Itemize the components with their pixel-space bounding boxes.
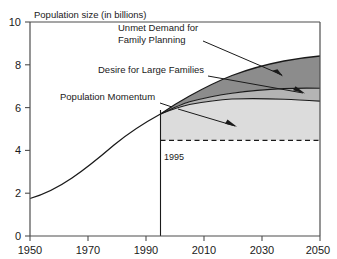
- annotation-population-momentum-leader-line: [160, 103, 172, 107]
- annotation-population-momentum-line1: Population Momentum: [60, 91, 155, 102]
- x-axis-tick-labels: 1950 1970 1990 2010 2030 2050: [18, 244, 330, 256]
- x-tick-label-1970: 1970: [76, 244, 100, 256]
- x-tick-label-2050: 2050: [306, 244, 330, 256]
- y-tick-label-6: 6: [15, 102, 21, 114]
- y-tick-label-8: 8: [15, 59, 21, 71]
- x-tick-label-2030: 2030: [250, 244, 274, 256]
- y-axis-tick-labels: 10 8 6 4 2 0: [9, 16, 21, 242]
- y-tick-label-4: 4: [15, 144, 21, 156]
- annotation-desire-large-families-line1: Desire for Large Families: [98, 64, 204, 75]
- y-axis-ticks: [25, 22, 30, 236]
- annotation-unmet-demand-line2: Family Planning: [118, 34, 186, 45]
- x-axis-ticks: [30, 236, 320, 241]
- x-tick-label-2010: 2010: [192, 244, 216, 256]
- annotation-unmet-demand-line1: Unmet Demand for: [118, 22, 198, 33]
- x-tick-label-1950: 1950: [18, 244, 42, 256]
- x-tick-label-1990: 1990: [134, 244, 158, 256]
- y-axis-title: Population size (in billions): [34, 9, 146, 20]
- y-tick-label-2: 2: [15, 187, 21, 199]
- chart-figure: 10 8 6 4 2 0 1950 1970 1990 2010 2030 20…: [0, 0, 337, 259]
- y-tick-label-0: 0: [15, 230, 21, 242]
- annotation-unmet-demand-leader-line: [203, 41, 282, 75]
- marker-label-1995: 1995: [164, 152, 184, 162]
- y-tick-label-10: 10: [9, 16, 21, 28]
- chart-canvas: 10 8 6 4 2 0 1950 1970 1990 2010 2030 20…: [0, 0, 337, 259]
